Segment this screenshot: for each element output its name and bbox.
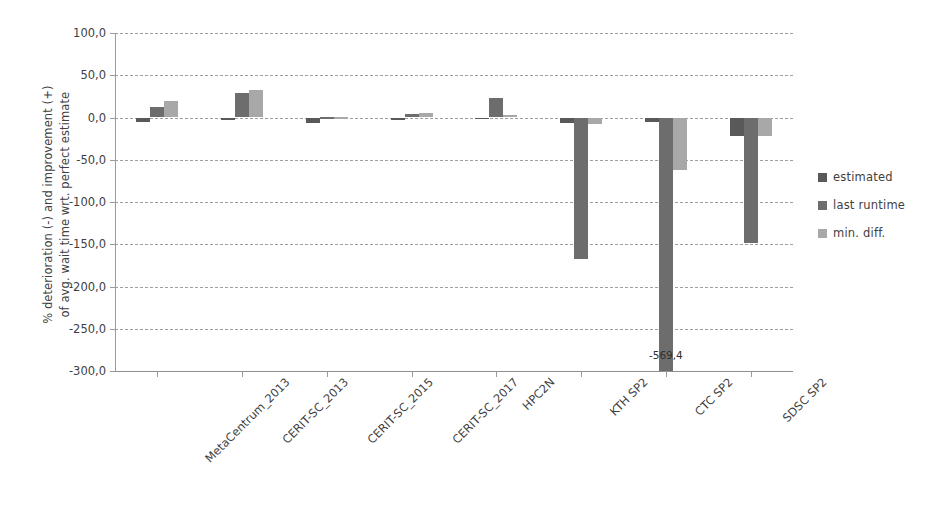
x-axis-category-label: CTC SP2 bbox=[692, 375, 736, 419]
bar bbox=[588, 118, 602, 125]
x-axis-category-label: CERIT-SC_2017 bbox=[449, 375, 521, 447]
bar-group bbox=[645, 33, 687, 371]
bar bbox=[150, 107, 164, 117]
x-axis-tick bbox=[581, 371, 582, 377]
y-axis-title-line1: % deterioration (-) and improvement (+) bbox=[40, 40, 57, 370]
y-axis-tick-label: -50,0 bbox=[76, 153, 106, 167]
x-axis-category-label: SDSC SP2 bbox=[779, 375, 829, 425]
x-axis-category-label: KTH SP2 bbox=[607, 375, 651, 419]
bar bbox=[475, 118, 489, 120]
plot-area: 100,050,00,0-50,0-100,0-150,0-200,0-250,… bbox=[115, 33, 793, 371]
x-axis-tick bbox=[157, 371, 158, 377]
bar bbox=[320, 117, 334, 119]
bar-group bbox=[730, 33, 772, 371]
legend-item: estimated bbox=[818, 163, 905, 191]
y-axis-tick-label: 100,0 bbox=[73, 26, 106, 40]
bar bbox=[560, 118, 574, 123]
x-axis-tick bbox=[751, 371, 752, 377]
bar bbox=[489, 98, 503, 117]
bar bbox=[306, 118, 320, 123]
bar bbox=[334, 117, 348, 119]
x-axis-category-label: CERIT-SC_2015 bbox=[364, 375, 436, 447]
y-axis-tick-label: -200,0 bbox=[69, 280, 106, 294]
legend-item: min. diff. bbox=[818, 219, 905, 247]
bar-group bbox=[475, 33, 517, 371]
bar bbox=[405, 114, 419, 117]
bar bbox=[164, 101, 178, 118]
x-axis-tick bbox=[327, 371, 328, 377]
legend-swatch-icon bbox=[818, 229, 827, 238]
y-axis-tick-label: 50,0 bbox=[80, 68, 106, 82]
bar-groups: -569,4 bbox=[115, 33, 793, 371]
legend-item: last runtime bbox=[818, 191, 905, 219]
y-axis-tick-label: -300,0 bbox=[69, 364, 106, 378]
legend-label: estimated bbox=[833, 170, 893, 184]
chart-legend: estimatedlast runtimemin. diff. bbox=[818, 163, 905, 247]
bar-group bbox=[560, 33, 602, 371]
bar-chart: % deterioration (-) and improvement (+) … bbox=[0, 0, 946, 505]
x-axis-tick bbox=[412, 371, 413, 377]
bar-group bbox=[221, 33, 263, 371]
y-axis-tick-label: -150,0 bbox=[69, 237, 106, 251]
y-axis-tick bbox=[110, 371, 116, 372]
legend-swatch-icon bbox=[818, 201, 827, 210]
bar-group bbox=[136, 33, 178, 371]
bar bbox=[673, 118, 687, 170]
bar bbox=[645, 118, 659, 123]
bar bbox=[503, 115, 517, 118]
bar bbox=[235, 93, 249, 118]
y-axis-tick-label: -250,0 bbox=[69, 322, 106, 336]
bar-group bbox=[306, 33, 348, 371]
legend-swatch-icon bbox=[818, 173, 827, 182]
bar bbox=[574, 118, 588, 260]
x-axis-category-label: HPC2N bbox=[520, 375, 558, 413]
bar bbox=[249, 90, 263, 118]
x-axis-category-label: MetaCentrum_2013 bbox=[203, 375, 293, 465]
y-axis-tick-label: -100,0 bbox=[69, 195, 106, 209]
legend-label: last runtime bbox=[833, 198, 905, 212]
bar bbox=[758, 118, 772, 137]
y-axis-tick-label: 0,0 bbox=[88, 111, 106, 125]
bar bbox=[659, 118, 673, 372]
x-axis-tick bbox=[666, 371, 667, 377]
legend-label: min. diff. bbox=[833, 226, 885, 240]
bar-value-label: -569,4 bbox=[649, 349, 683, 361]
bar bbox=[221, 118, 235, 120]
bar bbox=[419, 113, 433, 117]
bar bbox=[136, 118, 150, 122]
bar bbox=[744, 118, 758, 244]
x-axis-tick bbox=[496, 371, 497, 377]
bar bbox=[730, 118, 744, 137]
gridline bbox=[115, 371, 793, 372]
x-axis-tick bbox=[242, 371, 243, 377]
bar-group bbox=[391, 33, 433, 371]
bar bbox=[391, 118, 405, 120]
